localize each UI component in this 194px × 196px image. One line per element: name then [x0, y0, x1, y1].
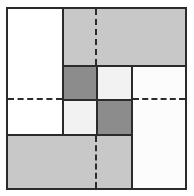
- right-panel-near-white: [131, 65, 187, 190]
- top-left-white-block: [6, 7, 64, 136]
- center-cell-light-bottom-left: [62, 99, 98, 136]
- center-cell-dark-bottom-right: [96, 99, 133, 136]
- dashed-horizontal-right: [133, 98, 185, 100]
- figure-root: [0, 0, 194, 196]
- dashed-horizontal-left: [8, 98, 62, 100]
- center-cell-dark-top-left: [62, 65, 98, 101]
- bottom-gray-band: [6, 134, 133, 190]
- center-cell-light-top-right: [96, 65, 133, 101]
- dashed-vertical-top: [95, 9, 97, 65]
- dashed-vertical-bottom: [95, 136, 97, 188]
- top-gray-band: [62, 7, 187, 67]
